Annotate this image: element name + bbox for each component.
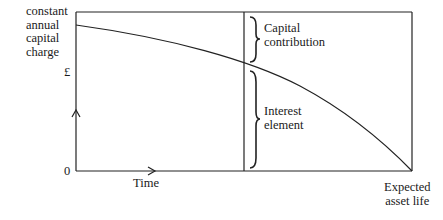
label-line: Capital [264, 21, 325, 35]
label-line: Expected [384, 180, 431, 194]
ylabel-line: constant [26, 5, 68, 19]
ylabel-line: capital [26, 32, 68, 46]
x-axis-label: Time [133, 177, 159, 190]
label-line: Interest [264, 104, 304, 118]
capital-contribution-label: Capital contribution [264, 21, 325, 49]
pound-label: £ [64, 66, 70, 79]
capital-brace-icon [250, 17, 260, 62]
y-axis-label: constant annual capital charge [26, 5, 68, 59]
expected-asset-life-label: Expected asset life [384, 180, 431, 208]
interest-element-label: Interest element [264, 104, 304, 132]
ylabel-line: charge [26, 46, 68, 60]
label-line: contribution [264, 35, 325, 49]
ylabel-line: annual [26, 19, 68, 33]
label-line: asset life [384, 194, 431, 208]
label-line: element [264, 118, 304, 132]
origin-label: 0 [64, 165, 70, 178]
interest-brace-icon [250, 71, 260, 168]
